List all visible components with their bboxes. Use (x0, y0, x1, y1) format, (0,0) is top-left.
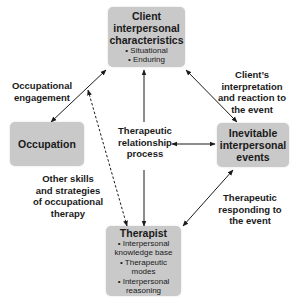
therapist-item-2b: modes (131, 267, 155, 277)
therapist-item-3b: reasoning (126, 286, 161, 296)
center-line-3: process (108, 148, 182, 160)
therapist-item-1b: knowledge base (115, 248, 173, 258)
client-title-line-1: Client (132, 10, 161, 22)
therapist-item-2a: • Therapeutic (120, 258, 167, 268)
client-item-situational: • Situational (125, 46, 167, 56)
therapeutic-responding-label: Therapeutic responding to the event (210, 192, 290, 227)
client-interp-line-1: Client’s (210, 69, 294, 81)
client-interp-line-2: interpretation (210, 81, 294, 93)
events-title-line-3: events (236, 151, 269, 163)
ther-resp-line-2: responding to (210, 204, 290, 216)
occ-eng-line-1: Occupational (6, 80, 78, 92)
therapist-title: Therapist (120, 227, 167, 239)
events-title-line-1: Inevitable (229, 127, 277, 139)
other-skills-line-3: of occupational (26, 196, 110, 208)
therapist-item-3a: • Interpersonal (118, 277, 170, 287)
other-skills-line-1: Other skills (26, 173, 110, 185)
client-title-line-2: interpersonal (113, 22, 180, 34)
client-characteristics-box: Client interpersonal characteristics • S… (108, 7, 185, 67)
occupation-title: Occupation (18, 138, 76, 150)
ther-resp-line-1: Therapeutic (210, 192, 290, 204)
client-interpretation-label: Client’s interpretation and reaction to … (210, 69, 294, 115)
occ-eng-line-2: engagement (6, 92, 78, 104)
other-skills-line-4: therapy (26, 208, 110, 220)
therapist-box: Therapist • Interpersonal knowledge base… (106, 226, 181, 296)
events-title-line-2: interpersonal (220, 139, 287, 151)
client-interp-line-3: and reaction to (210, 92, 294, 104)
occupational-engagement-label: Occupational engagement (6, 80, 78, 103)
occupation-box: Occupation (10, 122, 84, 166)
ther-resp-line-3: the event (210, 215, 290, 227)
client-title-line-3: characteristics (109, 34, 183, 46)
therapist-item-1a: • Interpersonal (118, 239, 170, 249)
inevitable-events-box: Inevitable interpersonal events (217, 123, 289, 167)
center-line-2: relationship (108, 137, 182, 149)
other-skills-label: Other skills and strategies of occupatio… (26, 173, 110, 219)
client-interp-line-4: the event (210, 104, 294, 116)
therapeutic-relationship-process-label: Therapeutic relationship process (108, 125, 182, 160)
center-line-1: Therapeutic (108, 125, 182, 137)
client-item-enduring: • Enduring (128, 55, 165, 65)
other-skills-line-2: and strategies (26, 185, 110, 197)
